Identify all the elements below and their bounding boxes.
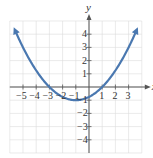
y-axis-label: y xyxy=(86,1,91,13)
y-tick-label: 1 xyxy=(82,69,87,79)
y-axis-arrow-icon xyxy=(87,14,92,20)
x-tick-label: −5 xyxy=(16,91,27,101)
x-tick-label: 3 xyxy=(126,91,131,101)
x-tick-label: 1 xyxy=(99,91,104,101)
x-tick-label: −3 xyxy=(42,91,53,101)
y-tick-label: −2 xyxy=(77,108,88,118)
y-tick-label: −1 xyxy=(77,95,88,105)
y-tick-label: 3 xyxy=(82,42,87,52)
y-tick-label: 2 xyxy=(82,56,87,66)
y-tick-label: 4 xyxy=(82,29,87,39)
y-tick-label: −3 xyxy=(77,122,88,132)
x-axis-arrow-icon xyxy=(145,85,151,90)
x-tick-label: 2 xyxy=(112,91,117,101)
x-axis-label: x xyxy=(152,80,153,92)
y-tick-label: −4 xyxy=(77,135,88,145)
x-tick-label: −2 xyxy=(56,91,67,101)
x-tick-label: −4 xyxy=(29,91,40,101)
